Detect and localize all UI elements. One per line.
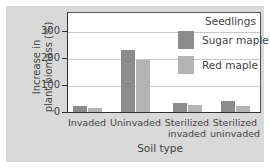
x-tick-label: Uninvaded (110, 117, 160, 128)
gridline (67, 86, 260, 87)
y-tick (62, 85, 67, 86)
legend-swatch-red-maple (178, 56, 194, 74)
y-tick-label: 200 (30, 53, 60, 63)
x-axis (62, 112, 261, 113)
gridline (67, 32, 260, 33)
bar-sugar-maple-uninvaded (121, 50, 135, 113)
y-tick-label: 300 (30, 26, 60, 36)
x-tick-label: Invaded (62, 117, 112, 128)
y-tick (62, 112, 67, 113)
y-tick (62, 58, 67, 59)
x-axis-title: Soil type (120, 142, 200, 154)
x-tick-label: Sterilizedinvaded (162, 117, 212, 139)
legend-swatch-sugar-maple (178, 31, 194, 49)
y-tick-label: 0 (30, 107, 60, 117)
y-tick (62, 31, 67, 32)
legend-label-sugar-maple: Sugar maple (202, 34, 269, 46)
legend-title: Seedlings (205, 15, 256, 27)
bar-red-maple-uninvaded (136, 60, 150, 113)
x-tick-label: Sterilizeduninvaded (210, 117, 260, 139)
y-tick-label: 100 (30, 80, 60, 90)
legend-label-red-maple: Red maple (202, 59, 258, 71)
y-axis (67, 12, 68, 113)
